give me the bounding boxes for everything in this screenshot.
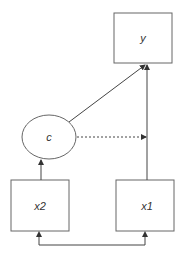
arrowhead-icon — [142, 231, 148, 237]
node-x1-label: x1 — [140, 200, 153, 212]
node-y: y — [114, 13, 172, 63]
node-x2-label: x2 — [33, 200, 46, 212]
node-x2: x2 — [11, 180, 69, 231]
arrowhead-icon — [36, 231, 42, 237]
node-c-label: c — [46, 131, 52, 143]
path-diagram: y c x2 x1 — [0, 0, 185, 257]
edge-x2-x1-covariance — [36, 231, 148, 245]
edge-c-to-y — [69, 65, 145, 122]
node-c: c — [22, 115, 76, 159]
node-x1: x1 — [116, 180, 174, 231]
